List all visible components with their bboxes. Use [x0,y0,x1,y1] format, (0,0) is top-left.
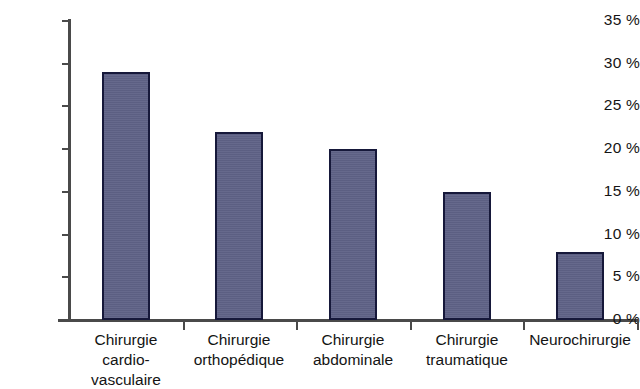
x-axis-origin-tick [69,313,71,322]
y-axis-tick [62,148,70,150]
y-axis-tick-label: 25 % [592,96,640,114]
y-axis-tick-label: 30 % [592,54,640,72]
x-axis-category-label: Neurochirurgie [518,330,640,350]
x-axis-category-label: Chirurgie orthopédique [177,330,301,370]
y-axis-tick [62,105,70,107]
y-axis-tick [62,234,70,236]
y-axis-tick-label: 20 % [592,139,640,157]
bar [556,252,604,320]
y-axis-tick [62,191,70,193]
x-axis-tick [523,321,525,330]
y-axis-tick-label: 35 % [592,11,640,29]
x-axis-tick [637,321,639,330]
x-axis-tick [183,321,185,330]
bar [443,192,491,320]
y-axis-tick [62,20,70,22]
x-axis-category-label: Chirurgie cardio- vasculaire [64,330,188,389]
bar [102,72,150,320]
x-axis-category-label: Chirurgie abdominale [291,330,415,370]
x-axis-tick [410,321,412,330]
x-axis-tick [296,321,298,330]
y-axis-tick-label: 15 % [592,182,640,200]
y-axis-tick [62,276,70,278]
x-axis-category-label: Chirurgie traumatique [405,330,529,370]
bar [215,132,263,320]
bar [329,149,377,320]
y-axis-tick [62,63,70,65]
y-axis-tick-label: 10 % [592,225,640,243]
